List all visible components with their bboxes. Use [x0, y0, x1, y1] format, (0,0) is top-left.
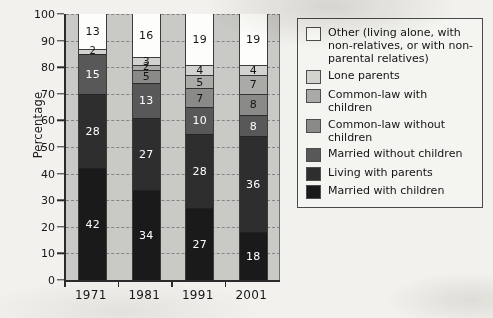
y-tick-label: 30: [41, 194, 55, 207]
y-tick-label: 20: [41, 220, 55, 233]
bar-segment[interactable]: 5: [133, 70, 160, 83]
y-tick-label: 100: [34, 8, 55, 21]
bar-segment[interactable]: 19: [186, 14, 213, 65]
x-axis-tick-labels: 1971198119912001: [64, 288, 278, 302]
bar-segment-value: 5: [143, 71, 150, 82]
bar-segment-value: 19: [193, 34, 207, 45]
bar-segment[interactable]: 8: [240, 115, 267, 136]
y-tick-label: 70: [41, 87, 55, 100]
x-tick-label: 1971: [64, 288, 118, 302]
bar-segment[interactable]: 13: [133, 83, 160, 118]
y-tick-label: 90: [41, 34, 55, 47]
legend-item[interactable]: Other (living alone, with non-relatives,…: [306, 26, 474, 66]
bar-segment[interactable]: 19: [240, 14, 267, 65]
y-tick-mark: [57, 120, 64, 121]
y-tick-mark: [57, 199, 64, 200]
x-tick-mark: [64, 280, 66, 287]
legend-item[interactable]: Common-law with children: [306, 88, 474, 114]
legend-item[interactable]: Common-law without children: [306, 118, 474, 144]
x-tick-mark: [118, 280, 120, 287]
y-tick-mark: [57, 253, 64, 254]
stacked-bar[interactable]: 16325132734: [132, 14, 161, 280]
bar-segment[interactable]: 27: [133, 118, 160, 190]
legend-item-label: Living with parents: [328, 166, 433, 179]
bar-segment[interactable]: 27: [186, 208, 213, 280]
legend-color-swatch: [306, 27, 321, 41]
plot-right-edge: [279, 14, 280, 280]
x-tick-label: 1991: [171, 288, 225, 302]
plot-area: 1321528421632513273419457102827194788361…: [64, 14, 280, 282]
legend-item-label: Other (living alone, with non-relatives,…: [328, 26, 474, 66]
bar-slot: 1947883618: [227, 14, 281, 280]
bar-segment[interactable]: 36: [240, 136, 267, 232]
bar-segment[interactable]: 7: [240, 75, 267, 94]
y-tick-label: 40: [41, 167, 55, 180]
bar-segment[interactable]: 18: [240, 232, 267, 280]
legend-color-swatch: [306, 148, 321, 162]
legend-item-label: Common-law without children: [328, 118, 474, 144]
stacked-bar[interactable]: 132152842: [78, 14, 107, 280]
bar-segment[interactable]: 34: [133, 190, 160, 280]
legend-item[interactable]: Married without children: [306, 147, 474, 162]
y-tick-label: 0: [48, 274, 55, 287]
y-tick-label: 50: [41, 141, 55, 154]
bar-segment-value: 7: [250, 79, 257, 90]
bar-segment[interactable]: 42: [79, 168, 106, 280]
y-tick-mark: [57, 13, 64, 14]
bar-segment-value: 8: [250, 121, 257, 132]
legend-color-swatch: [306, 119, 321, 133]
x-tick-label: 1981: [118, 288, 172, 302]
bar-segment[interactable]: 28: [79, 94, 106, 168]
y-tick-mark: [57, 93, 64, 94]
legend-color-swatch: [306, 70, 321, 84]
legend-item[interactable]: Lone parents: [306, 69, 474, 84]
y-tick-label: 80: [41, 61, 55, 74]
bar-segment[interactable]: 28: [186, 134, 213, 208]
legend-item[interactable]: Living with parents: [306, 166, 474, 181]
legend-color-swatch: [306, 185, 321, 199]
bar-segment-value: 13: [86, 26, 100, 37]
legend-item[interactable]: Married with children: [306, 184, 474, 199]
x-axis-tick-marks: [64, 280, 278, 288]
bar-segment[interactable]: 8: [240, 94, 267, 115]
stacked-bar[interactable]: 19457102827: [185, 14, 214, 280]
legend-color-swatch: [306, 167, 321, 181]
bar-segment[interactable]: 10: [186, 107, 213, 134]
bar-segment-value: 28: [86, 126, 100, 137]
bar-segment-value: 10: [193, 115, 207, 126]
legend-color-swatch: [306, 89, 321, 103]
bar-segment-value: 8: [250, 99, 257, 110]
y-tick-mark: [57, 279, 64, 280]
bar-slot: 132152842: [66, 14, 120, 280]
y-tick-mark: [57, 226, 64, 227]
y-tick-mark: [57, 173, 64, 174]
bar-segment-value: 5: [196, 77, 203, 88]
y-tick-mark: [57, 66, 64, 67]
bar-segment-value: 18: [246, 251, 260, 262]
bar-segment-value: 42: [86, 219, 100, 230]
bar-segment[interactable]: 5: [186, 75, 213, 88]
bar-segment-value: 27: [139, 149, 153, 160]
y-tick-label: 10: [41, 247, 55, 260]
bar-segment-value: 13: [139, 95, 153, 106]
bar-segment[interactable]: 7: [186, 88, 213, 107]
y-tick-mark: [57, 146, 64, 147]
bar-segment-value: 34: [139, 230, 153, 241]
legend-item-label: Lone parents: [328, 69, 400, 82]
bar-segment-value: 16: [139, 30, 153, 41]
y-axis-tick-labels: 0102030405060708090100: [28, 14, 64, 280]
stacked-bar[interactable]: 1947883618: [239, 14, 268, 280]
bar-slot: 19457102827: [173, 14, 227, 280]
bar-segment-value: 28: [193, 166, 207, 177]
bar-segment-value: 19: [246, 34, 260, 45]
bar-slot: 16325132734: [120, 14, 174, 280]
bar-segment-value: 7: [196, 93, 203, 104]
bar-segment[interactable]: 15: [79, 54, 106, 94]
bar-segment[interactable]: 13: [79, 14, 106, 49]
legend-item-label: Married without children: [328, 147, 462, 160]
bar-segment[interactable]: 16: [133, 14, 160, 57]
bar-segment[interactable]: 4: [186, 65, 213, 76]
bar-segment[interactable]: 4: [240, 65, 267, 76]
x-tick-mark: [225, 280, 227, 287]
bar-group: 1321528421632513273419457102827194788361…: [66, 14, 280, 280]
